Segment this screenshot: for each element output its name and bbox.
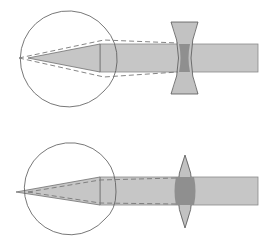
optics-diagram — [0, 0, 272, 239]
focused-cone — [28, 44, 100, 72]
panel-myopia-correction — [19, 11, 258, 107]
lens-beam-overlap — [175, 177, 196, 205]
panel-hyperopia-correction — [16, 143, 258, 235]
lens-beam-overlap — [179, 44, 190, 72]
